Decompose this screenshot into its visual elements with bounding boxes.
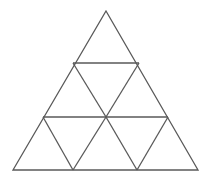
- triangle-diagram: [0, 0, 210, 179]
- figure-canvas: [0, 0, 210, 179]
- figure-background: [0, 0, 210, 179]
